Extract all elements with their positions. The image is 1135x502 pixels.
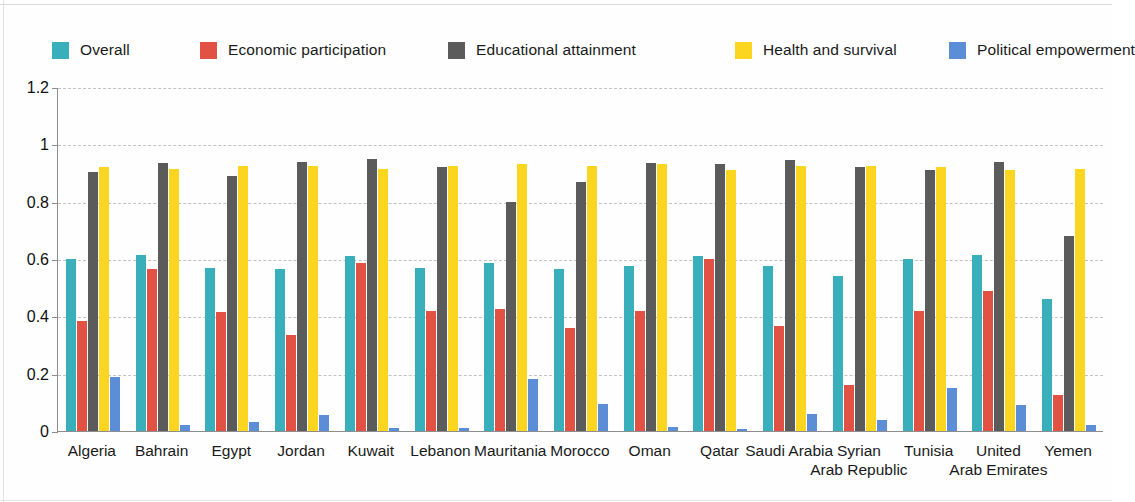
- bar[interactable]: [866, 166, 876, 431]
- bar[interactable]: [877, 420, 887, 431]
- bar[interactable]: [576, 182, 586, 431]
- bar[interactable]: [136, 255, 146, 431]
- bar[interactable]: [1042, 299, 1052, 431]
- bar[interactable]: [88, 172, 98, 431]
- bar[interactable]: [484, 263, 494, 431]
- bar[interactable]: [833, 276, 843, 431]
- legend-swatch-icon: [735, 42, 752, 59]
- bar[interactable]: [635, 311, 645, 431]
- legend-item-economic-participation[interactable]: Economic participation: [200, 41, 386, 59]
- bar[interactable]: [308, 166, 318, 431]
- bar-group: [1041, 88, 1097, 431]
- bar[interactable]: [227, 176, 237, 431]
- bar[interactable]: [356, 263, 366, 431]
- bar[interactable]: [1053, 395, 1063, 431]
- bar[interactable]: [1016, 405, 1026, 431]
- bar-group: [344, 88, 400, 431]
- legend-item-educational-attainment[interactable]: Educational attainment: [448, 41, 636, 59]
- x-axis-category-label: Tunisia: [904, 441, 953, 460]
- y-axis-tick-label: 0: [40, 423, 49, 441]
- legend-swatch-icon: [949, 42, 966, 59]
- bar[interactable]: [249, 422, 259, 431]
- bar[interactable]: [1005, 170, 1015, 431]
- bar[interactable]: [598, 404, 608, 431]
- bar[interactable]: [1064, 236, 1074, 431]
- legend-item-political-empowerment[interactable]: Political empowerment: [949, 41, 1135, 59]
- bar[interactable]: [415, 268, 425, 431]
- bar[interactable]: [624, 266, 634, 431]
- bar[interactable]: [726, 170, 736, 431]
- bar[interactable]: [646, 163, 656, 431]
- bar[interactable]: [99, 167, 109, 431]
- bar-group: [483, 88, 539, 431]
- bar[interactable]: [1075, 169, 1085, 431]
- x-axis-category-label: Oman: [629, 441, 671, 460]
- bar[interactable]: [715, 164, 725, 431]
- bar[interactable]: [345, 256, 355, 431]
- bar[interactable]: [994, 162, 1004, 431]
- bar[interactable]: [855, 167, 865, 431]
- bar[interactable]: [983, 291, 993, 431]
- bar[interactable]: [844, 385, 854, 431]
- bar[interactable]: [110, 377, 120, 431]
- bar[interactable]: [448, 166, 458, 431]
- bar[interactable]: [774, 326, 784, 431]
- bar[interactable]: [169, 169, 179, 431]
- legend-item-overall[interactable]: Overall: [52, 41, 130, 59]
- bar[interactable]: [205, 268, 215, 431]
- bar[interactable]: [238, 166, 248, 431]
- bar[interactable]: [1086, 425, 1096, 431]
- legend-item-label: Educational attainment: [476, 41, 636, 59]
- bar[interactable]: [657, 164, 667, 431]
- bar[interactable]: [565, 328, 575, 431]
- bar[interactable]: [426, 311, 436, 431]
- bar[interactable]: [668, 427, 678, 431]
- bar[interactable]: [737, 429, 747, 431]
- x-axis-category-label: Kuwait: [348, 441, 395, 460]
- bar[interactable]: [693, 256, 703, 431]
- bar[interactable]: [437, 167, 447, 431]
- bar[interactable]: [378, 169, 388, 431]
- bar[interactable]: [704, 259, 714, 431]
- bar[interactable]: [319, 415, 329, 431]
- bar[interactable]: [763, 266, 773, 431]
- page-edge-bottom-rule: [0, 500, 1112, 501]
- bar[interactable]: [459, 428, 469, 431]
- bar[interactable]: [367, 159, 377, 431]
- bar[interactable]: [286, 335, 296, 431]
- bar[interactable]: [66, 259, 76, 431]
- plot-area: 00.20.40.60.811.2: [57, 88, 1103, 432]
- bar[interactable]: [495, 309, 505, 431]
- bar[interactable]: [216, 312, 226, 431]
- bar[interactable]: [275, 269, 285, 431]
- bar[interactable]: [158, 163, 168, 431]
- legend-item-health-and-survival[interactable]: Health and survival: [735, 41, 897, 59]
- bar[interactable]: [180, 425, 190, 431]
- bar[interactable]: [947, 388, 957, 431]
- bar[interactable]: [147, 269, 157, 431]
- bars-layer: [58, 88, 1103, 431]
- bar[interactable]: [936, 167, 946, 431]
- y-axis-tick-label: 0.4: [27, 308, 49, 326]
- bar[interactable]: [925, 170, 935, 431]
- x-axis-category-label: Algeria: [68, 441, 116, 460]
- bar[interactable]: [807, 414, 817, 431]
- bar-group: [832, 88, 888, 431]
- bar[interactable]: [796, 166, 806, 431]
- bar[interactable]: [389, 428, 399, 431]
- bar[interactable]: [903, 259, 913, 431]
- bar[interactable]: [972, 255, 982, 431]
- bar[interactable]: [554, 269, 564, 431]
- bar[interactable]: [517, 164, 527, 431]
- bar[interactable]: [297, 162, 307, 431]
- y-axis-tick-label: 1: [40, 136, 49, 154]
- bar[interactable]: [528, 379, 538, 431]
- bar[interactable]: [587, 166, 597, 431]
- bar[interactable]: [785, 160, 795, 431]
- bar[interactable]: [914, 311, 924, 431]
- bar-group: [692, 88, 748, 431]
- y-axis-tick-label: 0.2: [27, 366, 49, 384]
- bar[interactable]: [77, 321, 87, 431]
- bar[interactable]: [506, 202, 516, 431]
